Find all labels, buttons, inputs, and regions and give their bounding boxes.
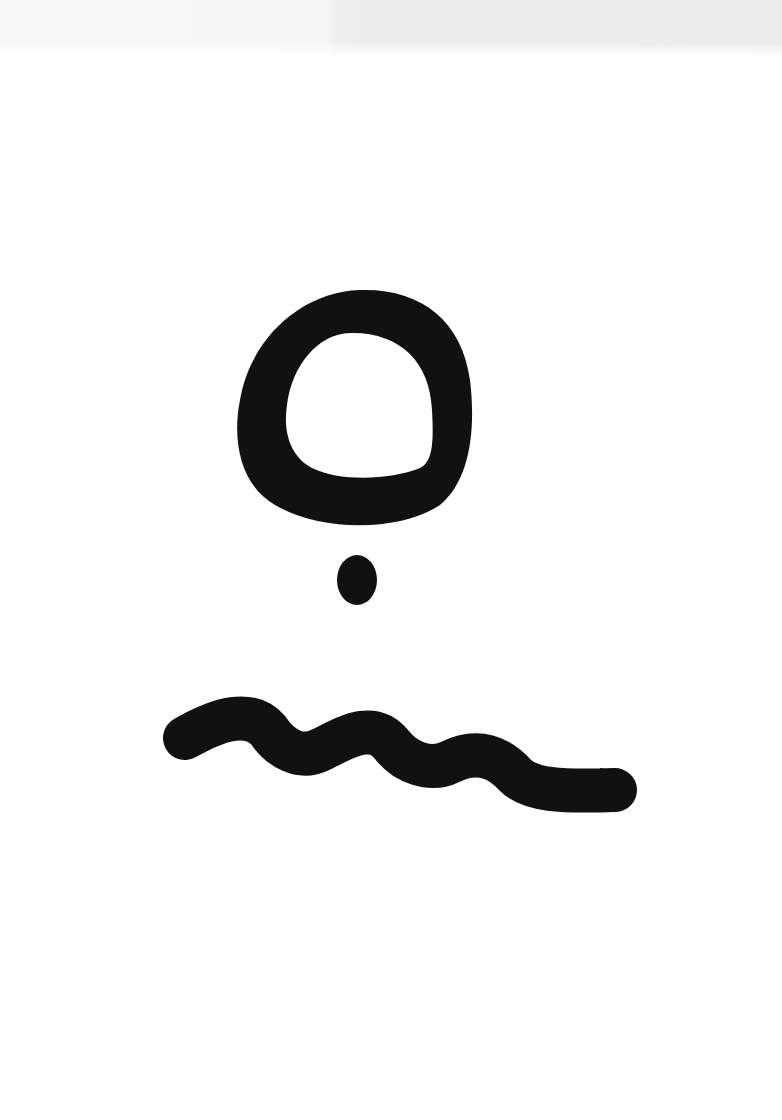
wave-mark [185, 718, 615, 790]
dot-mark [337, 555, 377, 605]
ring-mark [237, 290, 472, 525]
brush-marks [0, 0, 782, 1120]
